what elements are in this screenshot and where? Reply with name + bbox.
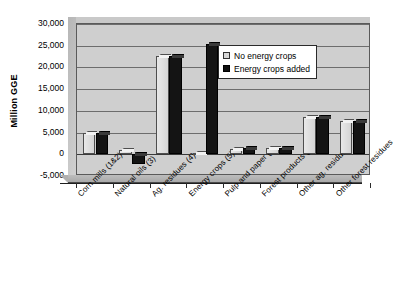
legend-item: Energy crops added: [223, 62, 310, 75]
y-tick-label: 15,000: [20, 83, 64, 93]
chart-legend: No energy crops Energy crops added: [218, 45, 317, 79]
y-tick-label: 0: [20, 148, 64, 158]
bar: [353, 121, 366, 154]
bar: [243, 148, 256, 155]
x-axis-labels: Corn mills (1&2)Natural oils (3)Ag. resi…: [0, 186, 377, 291]
y-tick-label: 20,000: [20, 61, 64, 71]
y-tick-label: -5,000: [20, 170, 64, 180]
bar: [83, 133, 96, 154]
bar: [206, 44, 219, 155]
floor-left-face: [60, 175, 68, 183]
y-axis-title: Million GGE: [9, 56, 19, 146]
bar: [96, 133, 109, 154]
y-tick-label: 5,000: [20, 127, 64, 137]
bar-top-cap: [356, 119, 368, 123]
bar: [193, 153, 206, 155]
bar: [132, 154, 145, 164]
plot-area: [68, 17, 370, 175]
bar: [303, 117, 316, 155]
bar-top-cap: [319, 115, 331, 119]
y-tick-label: 10,000: [20, 105, 64, 115]
bar: [230, 149, 243, 155]
bar: [119, 150, 132, 155]
bar-top-cap: [246, 146, 258, 150]
bar-top-cap: [172, 54, 184, 58]
legend-label: Energy crops added: [234, 64, 310, 74]
bar: [266, 148, 279, 154]
bar-top-cap: [99, 131, 111, 135]
bar: [169, 56, 182, 154]
legend-swatch-energy-crops-added: [223, 65, 230, 72]
legend-item: No energy crops: [223, 49, 310, 62]
bar: [279, 148, 292, 155]
bar-top-cap: [122, 148, 134, 152]
bar: [156, 56, 169, 154]
legend-label: No energy crops: [234, 51, 296, 61]
y-tick-label: 25,000: [20, 40, 64, 50]
plot-left-face: [68, 17, 76, 175]
y-tick-label: 30,000: [20, 18, 64, 28]
bar: [316, 117, 329, 154]
bar-top-cap: [135, 152, 147, 156]
legend-swatch-no-energy-crops: [223, 52, 230, 59]
bar: [340, 121, 353, 154]
bar-top-cap: [209, 42, 221, 46]
bar-top-cap: [282, 146, 294, 150]
